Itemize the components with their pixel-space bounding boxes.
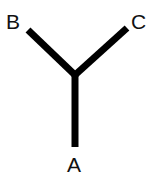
node-label-c: C: [131, 11, 146, 32]
junction-point: [72, 72, 79, 79]
node-label-b: B: [6, 11, 20, 32]
diagram-canvas: B C A: [0, 0, 151, 185]
node-label-a: A: [67, 154, 81, 175]
